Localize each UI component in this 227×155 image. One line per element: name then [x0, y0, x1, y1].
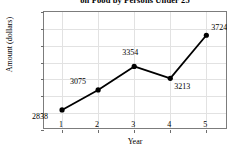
x-tick-mark	[134, 130, 135, 133]
series-markers	[59, 33, 209, 113]
x-tick-label: 3	[123, 121, 143, 129]
x-tick-mark	[62, 130, 63, 133]
data-series	[44, 12, 227, 130]
data-point	[132, 64, 137, 69]
data-point-label: 3354	[122, 49, 138, 57]
x-tick-label: 4	[159, 121, 179, 129]
data-point	[168, 76, 173, 81]
y-axis-title: Amount (dollars)	[5, 5, 14, 85]
data-point	[59, 107, 64, 112]
chart-title: on Food by Persons Under 25	[43, 0, 227, 5]
data-point	[96, 87, 101, 92]
x-tick-mark	[98, 130, 99, 133]
x-axis-title: Year	[43, 137, 227, 146]
x-tick-mark	[206, 130, 207, 133]
data-point	[204, 33, 209, 38]
plot-area	[43, 11, 227, 129]
x-tick-label: 1	[51, 121, 71, 129]
line-chart: on Food by Persons Under 25 Amount (doll…	[0, 0, 227, 155]
x-tick-mark	[170, 130, 171, 133]
series-line	[62, 35, 206, 110]
y-tick-mark	[41, 130, 44, 131]
data-point-label: 3075	[70, 78, 86, 86]
x-tick-label: 2	[87, 121, 107, 129]
data-point-label: 2838	[32, 113, 48, 121]
x-tick-label: 5	[195, 121, 215, 129]
data-point-label: 3724	[211, 24, 227, 32]
data-point-label: 3213	[174, 83, 190, 91]
